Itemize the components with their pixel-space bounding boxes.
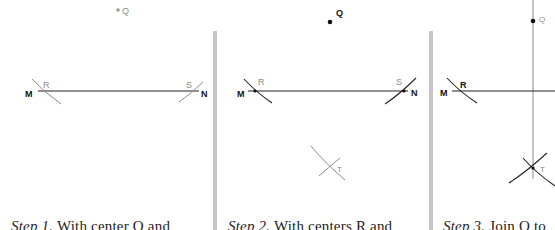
label-q: Q bbox=[122, 6, 129, 16]
label-q: Q bbox=[336, 8, 343, 18]
point-q-marker bbox=[328, 20, 333, 25]
label-n: N bbox=[201, 89, 208, 99]
arc-t-from-r bbox=[311, 146, 345, 180]
caption-step3: Step 3. Join Q to bbox=[443, 218, 546, 230]
caption-step-number: Step 3. bbox=[443, 218, 485, 230]
point-s-marker bbox=[402, 89, 405, 92]
point-t-marker bbox=[531, 166, 534, 169]
label-m: M bbox=[440, 88, 448, 98]
arc-t-from-r bbox=[523, 158, 555, 186]
label-r: R bbox=[460, 80, 467, 90]
caption-step-number: Step 2. bbox=[228, 218, 270, 230]
point-r-marker bbox=[253, 89, 256, 92]
caption-text: With centers R and bbox=[270, 218, 392, 230]
point-q-marker bbox=[116, 8, 120, 12]
label-n: N bbox=[411, 88, 418, 98]
caption-text: With center Q and bbox=[53, 218, 170, 230]
panel-divider-1 bbox=[213, 31, 217, 230]
panel-divider-2 bbox=[429, 31, 433, 230]
caption-step-number: Step 1. bbox=[11, 218, 53, 230]
caption-text: Join Q to bbox=[485, 218, 546, 230]
label-r: R bbox=[258, 77, 265, 87]
label-s: S bbox=[396, 77, 402, 87]
panel-step1: Q M R S N bbox=[25, 6, 208, 104]
label-t: T bbox=[337, 165, 342, 174]
panel-step2: Q M R S N T bbox=[237, 8, 418, 180]
caption-step1: Step 1. With center Q and bbox=[11, 218, 170, 230]
construction-diagram: Q M R S N Q M R S N T Q M R bbox=[0, 0, 555, 230]
label-m: M bbox=[25, 89, 33, 99]
label-q: Q bbox=[539, 15, 545, 24]
label-r: R bbox=[43, 80, 50, 90]
caption-step2: Step 2. With centers R and bbox=[228, 218, 392, 230]
label-t: T bbox=[540, 165, 545, 174]
point-q-marker bbox=[531, 19, 536, 24]
label-m: M bbox=[237, 89, 245, 99]
label-s: S bbox=[186, 80, 192, 90]
panel-step3: Q M R T bbox=[440, 0, 555, 186]
